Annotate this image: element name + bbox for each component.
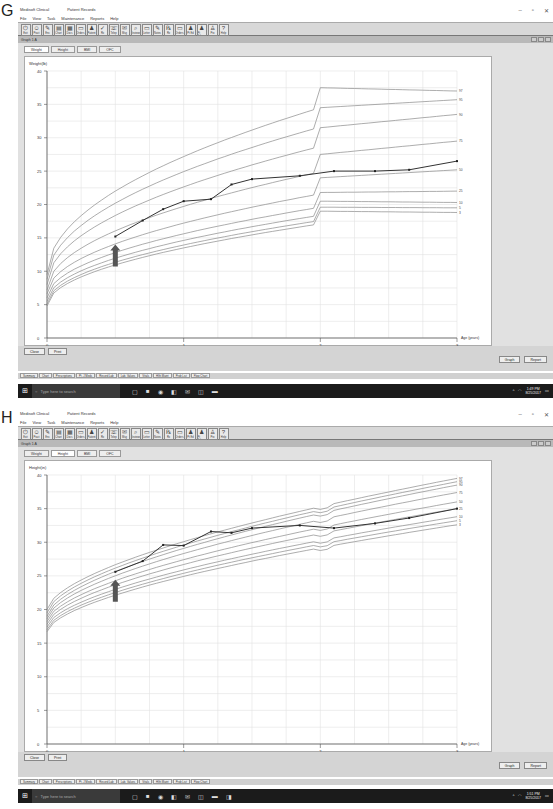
toolbar-button-reviews[interactable]: ⌕Reviews: [131, 428, 141, 440]
section-tab-flow-chart[interactable]: Flow Chart: [191, 779, 211, 784]
tab-weight[interactable]: Weight: [24, 450, 49, 457]
section-tab-vitals[interactable]: Vitals: [139, 779, 152, 784]
section-tab-chart[interactable]: Chart: [39, 373, 52, 378]
report-button[interactable]: Report: [524, 762, 547, 769]
toolbar-button-help[interactable]: ?Help: [219, 24, 229, 36]
section-tab-prob-list[interactable]: Prob List: [173, 779, 190, 784]
notification-icon[interactable]: ▭: [545, 794, 549, 798]
menu-help[interactable]: Help: [110, 420, 118, 425]
section-tab-prescriptions[interactable]: Prescriptions: [53, 373, 75, 378]
toolbar-button-rx[interactable]: ✓Rx: [98, 24, 108, 36]
taskbar-search[interactable]: ○ Type here to search: [32, 384, 120, 398]
file-explorer-icon[interactable]: ■: [146, 388, 150, 395]
child-minimize[interactable]: [531, 37, 537, 42]
browser-icon[interactable]: ◉: [158, 793, 163, 800]
menu-reports[interactable]: Reports: [90, 420, 104, 425]
toolbar-button-enc[interactable]: ✎Enc: [43, 24, 53, 36]
menu-view[interactable]: View: [32, 16, 41, 21]
tray-chevron-icon[interactable]: ^: [513, 389, 515, 393]
print-button[interactable]: Print: [48, 348, 67, 355]
toolbar-button-docs[interactable]: ▦Docs: [65, 428, 75, 440]
windows-start-icon[interactable]: ⊞: [18, 387, 32, 395]
network-icon[interactable]: ◠: [518, 389, 521, 393]
toolbar-button-notes[interactable]: ✎Notes: [153, 24, 163, 36]
menu-task[interactable]: Task: [47, 420, 55, 425]
toolbar-button-orders[interactable]: ▭Orders: [175, 24, 185, 36]
file-explorer-icon[interactable]: ■: [146, 793, 150, 800]
toolbar-button-rx[interactable]: ✓Rx: [98, 428, 108, 440]
tab-bmi[interactable]: BMI: [77, 450, 97, 457]
windows-start-icon[interactable]: ⊞: [18, 792, 32, 800]
section-tab-prescriptions[interactable]: Prescriptions: [53, 779, 75, 784]
menu-view[interactable]: View: [32, 420, 41, 425]
section-tab-vitals[interactable]: Vitals: [139, 373, 152, 378]
child-restore[interactable]: [538, 37, 544, 42]
section-tab-flow-chart[interactable]: Flow Chart: [191, 373, 211, 378]
toolbar-button-letter[interactable]: ▭Letter: [142, 428, 152, 440]
toolbar-button-pt-ed[interactable]: ♟Pt Ed: [186, 428, 196, 440]
toolbar-button-exit[interactable]: ⏻Exit: [21, 428, 31, 440]
toolbar-button-pt-educ[interactable]: ♟Pt Educ: [197, 24, 207, 36]
child-close[interactable]: [545, 441, 551, 446]
child-close[interactable]: [545, 37, 551, 42]
section-tab-record-lab[interactable]: Record Lab: [96, 373, 116, 378]
menu-task[interactable]: Task: [47, 16, 55, 21]
app-icon[interactable]: ◫: [198, 388, 204, 395]
toolbar-button-pro[interactable]: ♙Pro: [208, 24, 218, 36]
medisoft-icon[interactable]: ▬: [212, 388, 218, 395]
toolbar-button-docs[interactable]: ▦Docs: [65, 24, 75, 36]
graph-button[interactable]: Graph: [499, 762, 521, 769]
toolbar-button-chart[interactable]: ▤Chart: [54, 24, 64, 36]
report-button[interactable]: Report: [524, 356, 547, 363]
section-tab-chart[interactable]: Chart: [39, 779, 52, 784]
print-button[interactable]: Print: [48, 754, 67, 761]
clock[interactable]: 1:49 PM 8/25/2017: [525, 387, 541, 396]
toolbar-button-notes[interactable]: ✎Notes: [153, 428, 163, 440]
close-button[interactable]: Close: [24, 348, 45, 355]
section-tab-pt-j-meds[interactable]: Pt. J Meds: [76, 779, 95, 784]
section-tab-prob-list[interactable]: Prob List: [173, 373, 190, 378]
clock[interactable]: 1:51 PM 8/25/2017: [525, 792, 541, 801]
tab-ofc[interactable]: OFC: [99, 450, 120, 457]
section-tab-summary[interactable]: Summary: [20, 779, 38, 784]
network-icon[interactable]: ◠: [518, 794, 521, 798]
mail-icon[interactable]: ✉: [185, 388, 190, 395]
app-icon[interactable]: ◫: [198, 793, 204, 800]
section-tab-record-lab[interactable]: Record Lab: [96, 779, 116, 784]
menu-reports[interactable]: Reports: [90, 16, 104, 21]
graph-button[interactable]: Graph: [499, 356, 521, 363]
toolbar-button-chart[interactable]: ▤Chart: [54, 428, 64, 440]
toolbar-button-rx[interactable]: ℞Rx: [164, 24, 174, 36]
menu-file[interactable]: File: [20, 420, 26, 425]
toolbar-button-msg[interactable]: ✉Msg: [120, 428, 130, 440]
section-tab-hlth-maint[interactable]: Hlth Maint: [153, 779, 172, 784]
section-tab-lab-values[interactable]: Lab. Values: [118, 373, 139, 378]
minimize-button[interactable]: –: [519, 7, 522, 14]
toolbar-button-orders[interactable]: ▭Orders: [76, 24, 86, 36]
toolbar-button-msg[interactable]: ✉Msg: [120, 24, 130, 36]
child-restore[interactable]: [538, 441, 544, 446]
medisoft-icon[interactable]: ▬: [212, 793, 218, 800]
section-tab-summary[interactable]: Summary: [20, 373, 38, 378]
task-view-icon[interactable]: ▢: [132, 793, 138, 800]
toolbar-button-exit[interactable]: ⏻Exit: [21, 24, 31, 36]
toolbar-button-rx[interactable]: ℞Rx: [164, 428, 174, 440]
toolbar-button-pract[interactable]: ☺Pract: [32, 24, 42, 36]
toolbar-button-orders[interactable]: ▭Orders: [175, 428, 185, 440]
tab-height[interactable]: Height: [51, 450, 75, 457]
menu-maintenance[interactable]: Maintenance: [61, 420, 84, 425]
tab-bmi[interactable]: BMI: [77, 46, 97, 53]
toolbar-button-help[interactable]: ?Help: [219, 428, 229, 440]
child-minimize[interactable]: [531, 441, 537, 446]
toolbar-button-orders[interactable]: ▭Orders: [76, 428, 86, 440]
maximize-button[interactable]: ▫: [532, 411, 534, 418]
toolbar-button-pt-ed[interactable]: ♟Pt Ed: [186, 24, 196, 36]
mail-icon[interactable]: ✉: [185, 793, 190, 800]
store-icon[interactable]: ◧: [171, 793, 177, 800]
app-icon-2[interactable]: ◨: [226, 793, 232, 800]
menu-help[interactable]: Help: [110, 16, 118, 21]
tray-chevron-icon[interactable]: ^: [513, 794, 515, 798]
toolbar-button-patient[interactable]: ♟Patient: [87, 428, 97, 440]
tab-ofc[interactable]: OFC: [99, 46, 120, 53]
tab-weight[interactable]: Weight: [24, 46, 49, 53]
